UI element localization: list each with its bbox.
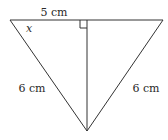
- right-angle-marker: [80, 20, 87, 28]
- top-segment-label: 5 cm: [40, 6, 68, 19]
- angle-x-label: x: [26, 22, 33, 35]
- right-side: [87, 20, 163, 131]
- left-side-label: 6 cm: [18, 82, 46, 95]
- right-side-label: 6 cm: [132, 82, 160, 95]
- left-side: [10, 20, 87, 131]
- triangle-diagram: 5 cm x 6 cm 6 cm: [0, 0, 168, 140]
